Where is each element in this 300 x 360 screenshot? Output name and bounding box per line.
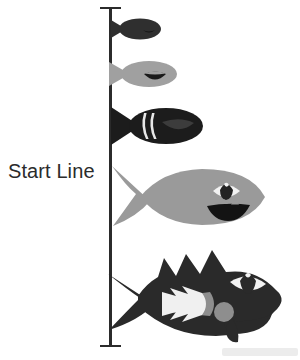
start-line-label: Start Line (8, 160, 98, 183)
fish-4-large (110, 164, 268, 230)
fish-size-progression-diagram: Start Line (0, 0, 300, 360)
fish-1-smallest (110, 14, 162, 44)
fish-2-body-group (109, 61, 177, 87)
fish-3-body (129, 108, 203, 144)
fish-4-body (140, 169, 265, 225)
fish-5-largest (106, 246, 296, 350)
fish-1-body-group (111, 19, 161, 40)
fish-3-medium (110, 102, 204, 150)
fish-5-body-group (108, 250, 282, 342)
fish-3-body-group (111, 107, 203, 145)
bottom-edge-artifact (222, 348, 298, 356)
fish-4-body-group (112, 166, 265, 226)
fish-1-body (119, 19, 161, 40)
fish-2-small (108, 56, 178, 92)
